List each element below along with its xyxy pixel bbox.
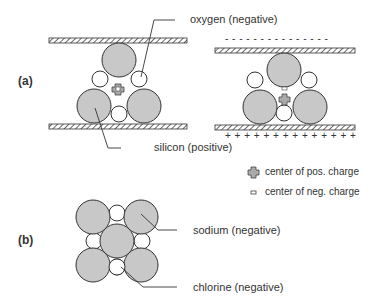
part-a-label: (a) [18, 74, 33, 88]
negative-charges: - - - - - - - - - - - - - - - [225, 33, 328, 44]
legend-neg-text: center of neg. charge [265, 186, 360, 197]
positive-charges: + + + + + + + + + + + + + + [225, 130, 356, 141]
part-b-label: (b) [18, 233, 33, 247]
nacl-structure [76, 200, 177, 287]
pos-charge-center-icon [279, 94, 290, 105]
legend-pos-icon [248, 167, 259, 178]
top-plate [215, 48, 355, 53]
sodium-label: sodium (negative) [193, 224, 280, 236]
chlorine-label: chlorine (negative) [193, 281, 284, 293]
bottom-plate [49, 124, 187, 129]
neg-charge-center-icon [282, 87, 287, 90]
top-plate [49, 38, 187, 43]
piezoelectric-diagram [0, 0, 374, 307]
crystal-stressed [215, 48, 355, 130]
legend-neg-icon [251, 191, 256, 194]
crystal-unstressed [49, 20, 187, 148]
legend-pos-text: center of pos. charge [265, 166, 359, 177]
silicon-label: silicon (positive) [154, 141, 232, 153]
oxygen-label: oxygen (negative) [190, 13, 277, 25]
